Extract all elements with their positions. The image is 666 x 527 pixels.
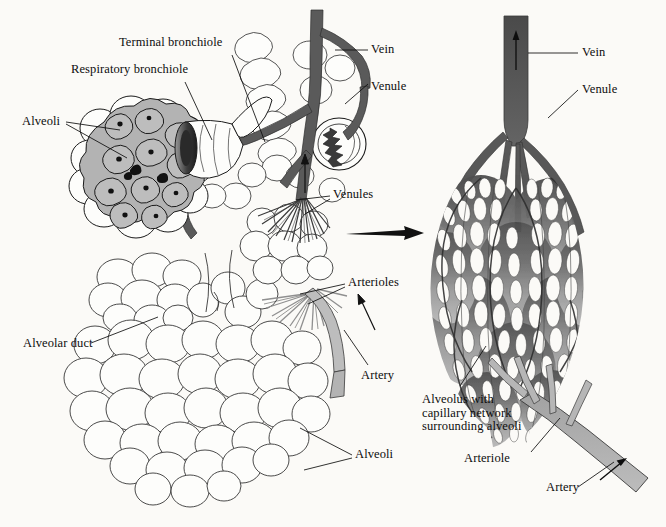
label-artery-left: Artery: [361, 369, 394, 383]
transition-arrow: [346, 226, 424, 240]
label-alveoli-bottom: Alveoli: [355, 448, 393, 462]
label-vein-left: Vein: [371, 43, 394, 57]
label-venules: Venules: [333, 188, 373, 202]
respiratory-bronchiole-tube: [175, 120, 243, 178]
alveolar-cluster-lower: [64, 253, 330, 507]
label-venule-left: Venule: [371, 80, 406, 94]
label-arteriole-right: Arteriole: [464, 452, 510, 466]
diagram-canvas: [0, 0, 666, 527]
label-alveolar-duct: Alveolar duct: [23, 337, 93, 351]
label-respiratory-bronchiole: Respiratory bronchiole: [71, 63, 188, 77]
label-terminal-bronchiole: Terminal bronchiole: [119, 36, 222, 50]
flow-arrow-artery: [358, 294, 375, 330]
vein-trunk-right: [504, 16, 528, 146]
label-artery-right: Artery: [546, 481, 579, 495]
label-alveoli-left: Alveoli: [22, 115, 60, 129]
label-venule-right: Venule: [582, 83, 617, 97]
alveolar-cluster-middle: [240, 204, 333, 284]
anatomical-diagram: Terminal bronchiole Respiratory bronchio…: [0, 0, 666, 527]
label-vein-right: Vein: [582, 46, 605, 60]
label-alveolus-capillary-network: Alveolus with capillary network surround…: [422, 393, 521, 434]
label-arterioles: Arterioles: [348, 276, 399, 290]
